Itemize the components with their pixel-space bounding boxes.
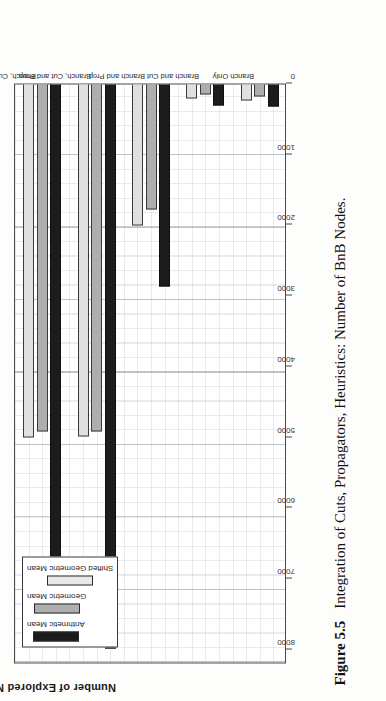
value-axis-title: Number of Explored Nodes xyxy=(0,681,116,693)
axis-tick-mark xyxy=(286,436,292,437)
axis-tick-mark xyxy=(286,577,292,578)
bar-shifted-geometric-mean xyxy=(78,83,89,436)
axis-tick-label: 7000 xyxy=(277,566,295,575)
legend-entry: Shifted Geometric Mean xyxy=(27,563,113,585)
chart-legend: Arithmetic Mean Geometric Mean Shifted G… xyxy=(22,556,118,647)
axis-tick-label: 3000 xyxy=(277,283,295,292)
bar-shifted-geometric-mean xyxy=(186,83,197,98)
axis-tick-mark xyxy=(286,365,292,366)
rotated-figure-stage: Number of Explored Nodes 800070006000500… xyxy=(0,0,386,701)
category-label: Branch and Prop. xyxy=(87,71,145,80)
axis-tick-mark xyxy=(286,223,292,224)
legend-label-shifted-geometric-mean: Shifted Geometric Mean xyxy=(27,563,113,572)
legend-swatch-shifted-geometric-mean xyxy=(47,575,93,585)
axis-tick-label: 6000 xyxy=(277,495,295,504)
axis-tick-mark xyxy=(286,648,292,649)
bar-arithmetic-mean xyxy=(159,83,170,286)
legend-label-arithmetic-mean: Arithmetic Mean xyxy=(27,619,85,628)
axis-tick-mark xyxy=(286,82,292,83)
axis-tick-label: 1000 xyxy=(277,142,295,151)
figure-caption-text: Integration of Cuts, Propagators, Heuris… xyxy=(332,197,348,608)
bar-arithmetic-mean xyxy=(213,83,224,105)
bar-shifted-geometric-mean xyxy=(23,83,34,437)
bar-geometric-mean xyxy=(91,83,102,431)
bar-shifted-geometric-mean xyxy=(241,83,252,100)
category-label: Branch, Cut, Prop. and Heuristics xyxy=(0,71,36,80)
bar-shifted-geometric-mean xyxy=(132,83,143,225)
bar-geometric-mean xyxy=(146,83,157,209)
bar-arithmetic-mean xyxy=(50,83,61,620)
bar-geometric-mean xyxy=(37,83,48,431)
legend-entry: Geometric Mean xyxy=(27,591,86,613)
bar-arithmetic-mean xyxy=(268,83,279,106)
category-label: Branch Only xyxy=(213,71,254,80)
figure-number: Figure 5.5 xyxy=(332,620,348,685)
bar-geometric-mean xyxy=(254,83,265,96)
figure-caption: Figure 5.5Integration of Cuts, Propagato… xyxy=(332,25,349,685)
figure-page: Number of Explored Nodes 800070006000500… xyxy=(0,0,386,701)
axis-tick-mark xyxy=(286,153,292,154)
axis-tick-label: 4000 xyxy=(277,354,295,363)
axis-tick-label: 2000 xyxy=(277,212,295,221)
axis-tick-mark xyxy=(286,506,292,507)
axis-tick-label: 0 xyxy=(291,71,295,80)
bar-chart: Number of Explored Nodes 800070006000500… xyxy=(8,71,308,687)
legend-swatch-geometric-mean xyxy=(34,603,80,613)
legend-entry: Arithmetic Mean xyxy=(27,619,85,641)
legend-label-geometric-mean: Geometric Mean xyxy=(27,591,86,600)
axis-tick-label: 5000 xyxy=(277,425,295,434)
category-label: Branch and Cut xyxy=(147,71,199,80)
bar-geometric-mean xyxy=(200,83,211,94)
axis-tick-mark xyxy=(286,294,292,295)
axis-tick-label: 8000 xyxy=(277,637,295,646)
legend-swatch-arithmetic-mean xyxy=(33,631,79,641)
